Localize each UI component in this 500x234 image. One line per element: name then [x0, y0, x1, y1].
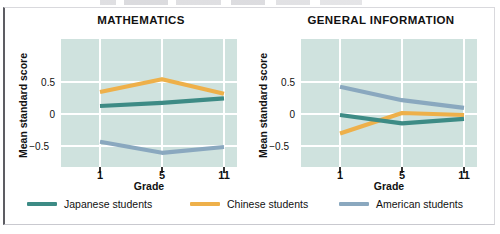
- chart-title-general-information: GENERAL INFORMATION: [249, 14, 495, 26]
- legend-label-american: American students: [376, 198, 463, 210]
- plot-area-general-information: [301, 39, 477, 167]
- legend-swatch-american: [339, 202, 369, 206]
- x-axis-label-general-information: Grade: [301, 180, 477, 192]
- y-tick-label-0-math: 0: [21, 109, 55, 120]
- series-line-japanese-math: [100, 98, 224, 106]
- chart-panel-general-information: GENERAL INFORMATION Mean standard score …: [249, 8, 495, 194]
- chart-panels: MATHEMATICS Mean standard score 0.5 0 −0…: [5, 8, 497, 194]
- legend-swatch-japanese: [27, 202, 57, 206]
- series-lines-mathematics: [61, 39, 237, 167]
- y-tick-label-0.5-math: 0.5: [21, 77, 55, 88]
- series-line-chinese-math: [100, 79, 224, 94]
- y-tick-label-0.5-gi: 0.5: [261, 77, 295, 88]
- chart-title-mathematics: MATHEMATICS: [5, 14, 251, 26]
- y-tick-label-0-gi: 0: [261, 109, 295, 120]
- legend-item-japanese: Japanese students: [27, 198, 152, 210]
- legend-label-japanese: Japanese students: [64, 198, 152, 210]
- figure-frame: MATHEMATICS Mean standard score 0.5 0 −0…: [3, 7, 495, 225]
- series-line-american-math: [100, 142, 224, 153]
- series-lines-general-information: [301, 39, 477, 167]
- legend-item-chinese: Chinese students: [190, 198, 308, 210]
- chart-panel-mathematics: MATHEMATICS Mean standard score 0.5 0 −0…: [5, 8, 251, 194]
- figure-two-line-charts: MATHEMATICS Mean standard score 0.5 0 −0…: [0, 0, 500, 234]
- series-line-american-gi: [340, 87, 464, 108]
- y-tick-label-minus0.5-math: −0.5: [15, 141, 49, 152]
- legend-swatch-chinese: [190, 202, 220, 206]
- chart-legend: Japanese students Chinese students Ameri…: [5, 194, 497, 225]
- legend-item-american: American students: [339, 198, 463, 210]
- scan-artifact-strip: [100, 0, 362, 5]
- legend-label-chinese: Chinese students: [227, 198, 308, 210]
- y-tick-label-minus0.5-gi: −0.5: [255, 141, 289, 152]
- plot-area-mathematics: [61, 39, 237, 167]
- x-axis-label-mathematics: Grade: [61, 180, 237, 192]
